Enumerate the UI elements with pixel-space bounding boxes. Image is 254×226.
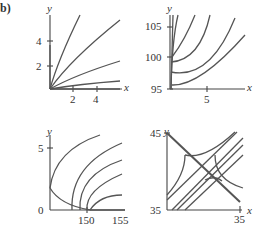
tl-trajectories: [50, 15, 120, 89]
tr-axes: [167, 15, 245, 92]
bl-trajectories: [50, 135, 125, 210]
br-axes: [164, 133, 242, 213]
tr-trajectories: [171, 15, 245, 89]
br-trajectories: [167, 132, 243, 210]
tl-axes: [47, 15, 122, 92]
phase-portraits: [0, 0, 254, 226]
